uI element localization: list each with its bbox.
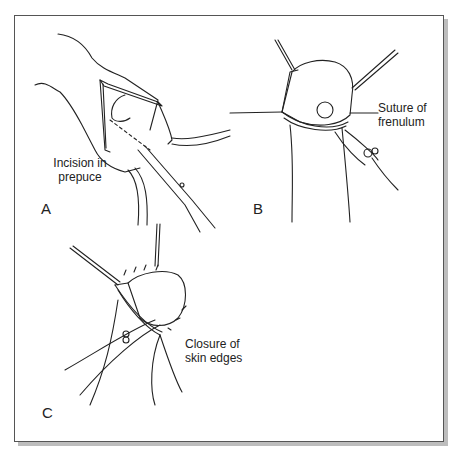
panel-letter-a: A bbox=[41, 200, 51, 217]
surgical-illustration bbox=[0, 0, 460, 453]
caption-b-line2: frenulum bbox=[378, 115, 427, 129]
panel-a-drawing bbox=[35, 34, 230, 232]
caption-panel-b: Suture of frenulum bbox=[378, 101, 427, 129]
panel-letter-c: C bbox=[42, 404, 53, 421]
caption-a-line1: Incision in bbox=[50, 156, 110, 170]
panel-letter-b: B bbox=[253, 200, 263, 217]
caption-a-line2: prepuce bbox=[50, 170, 110, 184]
caption-b-line1: Suture of bbox=[378, 101, 427, 115]
caption-panel-c: Closure of skin edges bbox=[185, 337, 242, 365]
caption-c-line2: skin edges bbox=[185, 351, 242, 365]
caption-panel-a: Incision in prepuce bbox=[50, 156, 110, 184]
panel-c-drawing bbox=[65, 224, 186, 405]
panel-b-drawing bbox=[230, 40, 398, 222]
caption-c-line1: Closure of bbox=[185, 337, 242, 351]
